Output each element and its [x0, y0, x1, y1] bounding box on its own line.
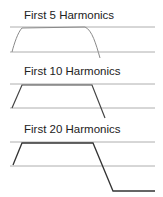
harmonics-diagram [0, 0, 163, 197]
waveform-curve [12, 85, 105, 118]
panel-5-harmonics [10, 27, 155, 58]
waveform-curve [13, 143, 155, 191]
waveform-curve [12, 27, 100, 58]
panel-10-harmonics [10, 84, 155, 118]
panel-20-harmonics [10, 142, 155, 191]
